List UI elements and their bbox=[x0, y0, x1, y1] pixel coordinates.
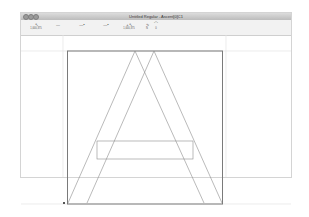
glyph-bounding-box bbox=[68, 51, 223, 204]
origin-point[interactable] bbox=[63, 202, 65, 204]
glyph-a-outline[interactable] bbox=[68, 51, 222, 203]
glyph-canvas[interactable] bbox=[0, 0, 309, 217]
